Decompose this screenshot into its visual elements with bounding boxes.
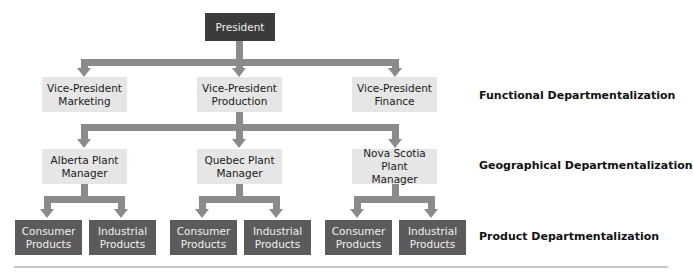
arrow-down-icon (350, 209, 364, 218)
vp-title: Vice-President (202, 82, 277, 95)
manager-title: Quebec Plant (204, 154, 274, 167)
product-type: Industrial (408, 225, 457, 238)
connector-horizontal (44, 196, 125, 203)
connector-drop (354, 196, 361, 210)
vp-title: Vice-President (357, 82, 432, 95)
product-word: Products (22, 238, 76, 251)
vp-production-box: Vice-PresidentProduction (197, 77, 282, 112)
arrow-down-icon (424, 209, 438, 218)
manager-title: Nova Scotia Plant (352, 147, 437, 173)
president-box: President (205, 13, 275, 41)
product-word: Products (408, 238, 457, 251)
product-word: Products (253, 238, 302, 251)
product-box-industrial: IndustrialProducts (244, 220, 311, 255)
quebec-manager-box: Quebec PlantManager (197, 149, 282, 184)
nova-scotia-manager-box: Nova Scotia PlantManager (352, 149, 437, 184)
vp-marketing-box: Vice-PresidentMarketing (42, 77, 127, 112)
vp-finance-box: Vice-PresidentFinance (352, 77, 437, 112)
arrow-down-icon (114, 209, 128, 218)
bottom-divider (14, 266, 668, 268)
connector-drop (428, 196, 435, 210)
arrow-down-icon (40, 209, 54, 218)
product-type: Consumer (332, 225, 386, 238)
connector-drop (118, 196, 125, 210)
product-type: Industrial (253, 225, 302, 238)
product-word: Products (332, 238, 386, 251)
manager-role: Manager (51, 167, 119, 180)
product-box-industrial: IndustrialProducts (399, 220, 466, 255)
arrow-down-icon (195, 209, 209, 218)
connector-drop (81, 124, 88, 140)
vp-dept: Production (202, 95, 277, 108)
product-label: Product Departmentalization (479, 230, 659, 243)
vp-dept: Finance (357, 95, 432, 108)
connector-drop (199, 196, 206, 210)
vp-title: Vice-President (47, 82, 122, 95)
arrow-down-icon (77, 139, 91, 148)
arrow-down-icon (77, 68, 91, 77)
arrow-down-icon (388, 68, 402, 77)
manager-role: Manager (204, 167, 274, 180)
product-box-consumer: ConsumerProducts (15, 220, 82, 255)
connector-horizontal (199, 196, 280, 203)
functional-label: Functional Departmentalization (479, 89, 675, 102)
connector-horizontal (354, 196, 435, 203)
president-label: President (216, 21, 265, 34)
product-type: Consumer (177, 225, 231, 238)
product-box-consumer: ConsumerProducts (325, 220, 392, 255)
connector-drop (392, 124, 399, 140)
product-box-industrial: IndustrialProducts (89, 220, 156, 255)
arrow-down-icon (232, 68, 246, 77)
vp-dept: Marketing (47, 95, 122, 108)
product-type: Consumer (22, 225, 76, 238)
connector-drop (273, 196, 280, 210)
arrow-down-icon (269, 209, 283, 218)
connector-drop (236, 124, 243, 140)
geographical-label: Geographical Departmentalization (479, 159, 693, 172)
alberta-manager-box: Alberta PlantManager (42, 149, 127, 184)
arrow-down-icon (232, 139, 246, 148)
product-box-consumer: ConsumerProducts (170, 220, 237, 255)
product-word: Products (177, 238, 231, 251)
product-word: Products (98, 238, 147, 251)
product-type: Industrial (98, 225, 147, 238)
manager-title: Alberta Plant (51, 154, 119, 167)
connector-drop (44, 196, 51, 210)
